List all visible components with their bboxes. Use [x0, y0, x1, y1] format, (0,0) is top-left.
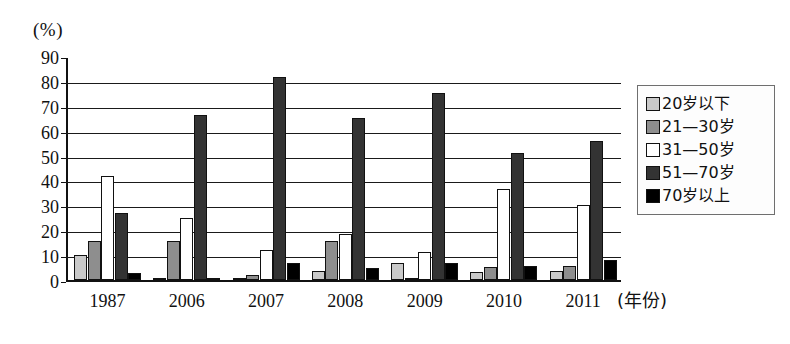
- bar: [391, 263, 404, 280]
- y-tick-label: 30: [41, 198, 59, 216]
- bar: [470, 272, 483, 280]
- bar: [88, 241, 101, 280]
- y-tick-mark: [61, 282, 66, 283]
- bar: [180, 218, 193, 280]
- legend-item-label: 21—30岁: [662, 119, 735, 135]
- x-axis-line: [66, 280, 621, 282]
- bar: [287, 263, 300, 280]
- y-tick-label: 50: [41, 149, 59, 167]
- bar: [511, 153, 524, 280]
- y-tick-label: 10: [41, 248, 59, 266]
- bar: [366, 268, 379, 280]
- legend-swatch-icon: [646, 143, 660, 157]
- y-tick-label: 80: [41, 74, 59, 92]
- x-tick-label: 2007: [248, 292, 284, 310]
- legend-item[interactable]: 21—30岁: [646, 115, 768, 138]
- y-axis-unit-label: (%): [33, 20, 63, 39]
- bar: [194, 115, 207, 280]
- bar: [153, 278, 166, 280]
- bar: [339, 234, 352, 280]
- legend-swatch-icon: [646, 120, 660, 134]
- x-tick-label: 2006: [169, 292, 205, 310]
- bar: [405, 278, 418, 280]
- bar: [74, 255, 87, 280]
- legend-swatch-icon: [646, 166, 660, 180]
- bar: [577, 205, 590, 280]
- bar: [590, 141, 603, 280]
- bar: [550, 271, 563, 280]
- legend-swatch-icon: [646, 97, 660, 111]
- bar: [207, 278, 220, 280]
- bar: [524, 266, 537, 280]
- bar: [604, 260, 617, 280]
- y-tick-label: 70: [41, 99, 59, 117]
- legend-swatch-icon: [646, 189, 660, 203]
- y-tick-label: 0: [50, 273, 59, 291]
- legend-item[interactable]: 70岁以上: [646, 184, 768, 207]
- bar-chart-figure: (%) 0102030405060708090 1987200620072008…: [0, 0, 790, 344]
- bar: [563, 266, 576, 280]
- bar-group: [233, 58, 300, 280]
- x-tick-label: 2009: [407, 292, 443, 310]
- bar: [445, 263, 458, 280]
- bar: [260, 250, 273, 280]
- legend-item-label: 51—70岁: [662, 165, 735, 181]
- y-tick-label: 40: [41, 173, 59, 191]
- bar-group: [74, 58, 141, 280]
- legend-item-label: 31—50岁: [662, 142, 735, 158]
- chart-legend: 20岁以下21—30岁31—50岁51—70岁70岁以上: [637, 85, 775, 215]
- bar-group: [312, 58, 379, 280]
- x-tick-label: 2008: [327, 292, 363, 310]
- bar: [418, 252, 431, 280]
- bars-layer: [66, 58, 621, 280]
- legend-item[interactable]: 20岁以下: [646, 92, 768, 115]
- bar: [167, 241, 180, 280]
- plot-area: 0102030405060708090: [66, 58, 621, 282]
- bar: [352, 118, 365, 280]
- bar: [115, 213, 128, 280]
- y-tick-label: 90: [41, 49, 59, 67]
- bar: [312, 271, 325, 280]
- bar: [273, 77, 286, 281]
- bar: [484, 267, 497, 280]
- y-tick-label: 20: [41, 223, 59, 241]
- bar: [128, 273, 141, 280]
- bar: [233, 278, 246, 280]
- bar-group: [153, 58, 220, 280]
- x-tick-label: 1987: [90, 292, 126, 310]
- bar: [497, 189, 510, 280]
- bar: [432, 93, 445, 280]
- x-axis-title: (年份): [617, 292, 667, 310]
- x-tick-label: 2011: [566, 292, 601, 310]
- y-tick-label: 60: [41, 124, 59, 142]
- bar: [101, 176, 114, 280]
- bar-group: [550, 58, 617, 280]
- legend-item-label: 20岁以下: [662, 96, 730, 112]
- legend-item-label: 70岁以上: [662, 188, 730, 204]
- legend-item[interactable]: 31—50岁: [646, 138, 768, 161]
- bar-group: [470, 58, 537, 280]
- bar: [325, 241, 338, 280]
- legend-item[interactable]: 51—70岁: [646, 161, 768, 184]
- bar-group: [391, 58, 458, 280]
- bar: [246, 275, 259, 280]
- x-tick-label: 2010: [486, 292, 522, 310]
